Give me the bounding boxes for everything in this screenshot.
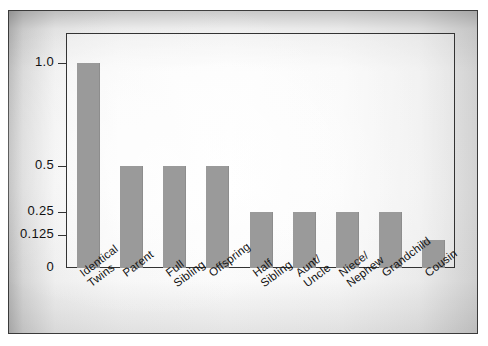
bar-full-sibling <box>163 166 186 268</box>
figure-root: 1.00.50.250.1250 IdenticalTwinsParentFul… <box>0 0 488 346</box>
x-axis-labels: IdenticalTwinsParentFullSiblingOffspring… <box>66 270 466 344</box>
bar-identical-twins <box>77 63 100 268</box>
bar-parent <box>120 166 143 268</box>
bar-offspring <box>206 166 229 268</box>
bars-layer <box>66 33 455 268</box>
